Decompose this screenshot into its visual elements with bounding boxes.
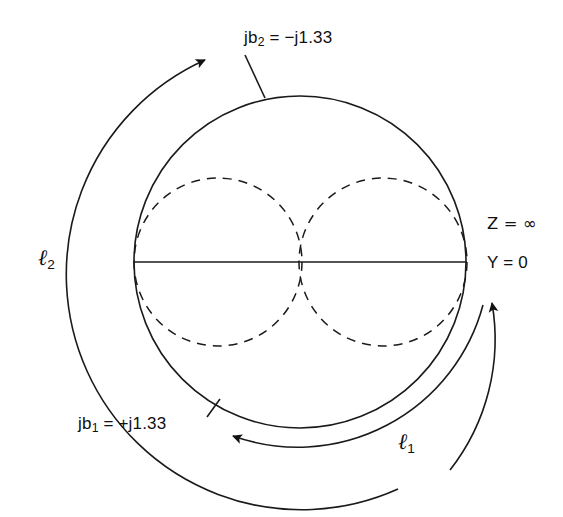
smith-chart-figure: jb2 = −j1.33 jb1 = +j1.33 Z = ∞ Y = 0 ℓ2… <box>0 0 563 517</box>
label-y-zero: Y = 0 <box>487 254 528 272</box>
jb2-leader-line <box>245 55 265 98</box>
label-jb2-prefix: jb <box>244 28 258 47</box>
label-ell1-symbol: ℓ <box>398 429 407 454</box>
label-ell2-subscript: 2 <box>47 257 55 272</box>
label-ell1-subscript: 1 <box>407 441 415 456</box>
label-jb1-prefix: jb <box>78 414 92 433</box>
label-jb1: jb1 = +j1.33 <box>78 415 166 435</box>
label-jb1-suffix: = +j1.33 <box>98 414 166 433</box>
label-jb2-suffix: = −j1.33 <box>264 28 332 47</box>
diagram-canvas <box>0 0 563 517</box>
label-z-infinity: Z = ∞ <box>487 215 537 232</box>
label-ell2: ℓ2 <box>38 245 55 272</box>
ell2-arc <box>66 60 398 510</box>
label-ell2-symbol: ℓ <box>38 245 47 270</box>
label-ell1: ℓ1 <box>398 429 415 456</box>
label-jb2: jb2 = −j1.33 <box>244 29 332 49</box>
ell1-arc-right <box>450 303 495 470</box>
